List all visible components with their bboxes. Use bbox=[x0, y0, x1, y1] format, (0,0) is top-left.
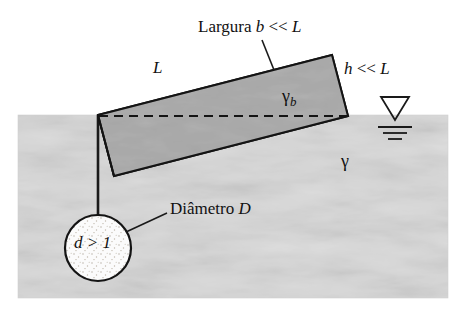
label-sphere-density: d > 1 bbox=[74, 234, 111, 251]
label-diameter-text: Diâmetro bbox=[170, 199, 234, 218]
label-length: L bbox=[153, 59, 162, 76]
label-thickness-relation: << bbox=[357, 59, 376, 78]
label-diameter-variable: D bbox=[238, 199, 250, 218]
label-fluid-specific-weight: γ bbox=[341, 152, 349, 170]
label-gate-specific-weight: γb bbox=[282, 87, 296, 109]
figure-canvas: Largura b << L L h << L γb γ Diâmetro D … bbox=[0, 0, 467, 316]
label-thickness-variable: h bbox=[344, 59, 353, 78]
label-width-reference: L bbox=[292, 17, 301, 36]
label-thickness-reference: L bbox=[380, 59, 389, 78]
label-diameter: Diâmetro D bbox=[170, 200, 251, 217]
label-width-variable: b bbox=[256, 17, 265, 36]
label-width-text: Largura bbox=[198, 17, 252, 36]
label-thickness: h << L bbox=[344, 60, 390, 77]
label-width-relation: << bbox=[269, 17, 288, 36]
diagram-svg bbox=[0, 0, 467, 316]
label-width: Largura b << L bbox=[198, 18, 301, 35]
gamma-b-subscript: b bbox=[290, 94, 296, 109]
gamma-b-symbol: γ bbox=[282, 86, 290, 106]
leader-line-largura bbox=[262, 40, 274, 70]
